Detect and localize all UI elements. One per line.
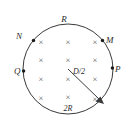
field-mark-icon: ×: [39, 37, 44, 47]
field-mark-icon: ×: [66, 37, 71, 47]
node-dot-n: [32, 39, 35, 42]
field-mark-icon: ×: [93, 37, 98, 47]
label-point-n: N: [15, 31, 23, 41]
field-mark-icon: ×: [66, 74, 71, 84]
label-point-q: Q: [14, 66, 21, 76]
label-point-m: M: [105, 35, 114, 45]
label-radius-arrow: D/2: [72, 67, 85, 76]
field-mark-icon: ×: [66, 55, 71, 65]
field-mark-icon: ×: [66, 92, 71, 102]
field-mark-icon: ×: [39, 93, 44, 103]
label-top-radius: R: [60, 14, 67, 24]
label-point-p: P: [114, 64, 121, 74]
node-dot-q: [22, 69, 25, 72]
physics-figure: × × × × × × × × × × × × R N M Q P D/2 2R: [0, 0, 135, 129]
field-mark-icon: ×: [39, 55, 44, 65]
field-mark-icon: ×: [93, 55, 98, 65]
label-bottom-diameter: 2R: [64, 104, 73, 113]
field-mark-icon: ×: [93, 74, 98, 84]
figure-canvas: × × × × × × × × × × × × R N M Q P D/2 2R: [0, 0, 135, 129]
node-dot-m: [101, 39, 104, 42]
node-dot-p: [111, 66, 114, 69]
field-mark-icon: ×: [39, 74, 44, 84]
